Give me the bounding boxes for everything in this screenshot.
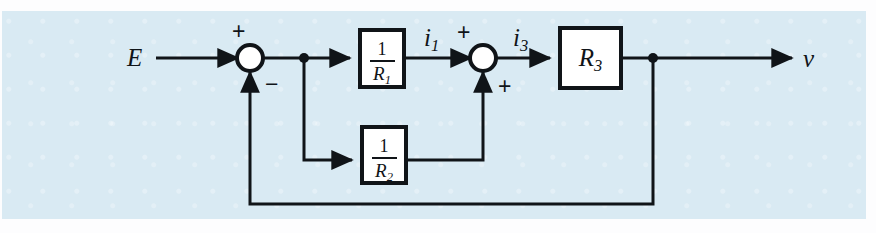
wire-branch-to-r2 (304, 58, 352, 160)
label-sum1-plus: + (232, 20, 245, 43)
summing-junction-2-circle (470, 45, 496, 71)
block-inv-r2-fraction-bar (372, 157, 397, 159)
block-r3-label-base: R (579, 44, 594, 71)
block-inv-r2-numerator: 1 (362, 137, 406, 156)
label-sum2-plus-top: + (457, 21, 470, 44)
label-sum2-plus-bottom: + (498, 75, 511, 98)
summing-junction-1-circle (237, 45, 263, 71)
figure-canvas: E + − i1 + + i3 v 1 R1 1 R2 R3 (0, 0, 876, 233)
label-input-e: E (127, 45, 142, 70)
block-inv-r1-denominator: R1 (360, 64, 404, 86)
block-inv-r2-denominator: R2 (362, 161, 406, 183)
block-inv-r2-denominator-base: R (375, 160, 387, 181)
block-inv-r1-denominator-subscript: 1 (385, 73, 391, 87)
block-r3-label-subscript: 3 (594, 56, 602, 75)
label-sum1-minus: − (265, 73, 278, 96)
branch-node-output-dot (648, 53, 658, 63)
block-r3-content: R3 (560, 45, 621, 74)
block-inv-r1-content: 1 R1 (360, 40, 404, 86)
label-signal-i3-base: i (513, 24, 520, 51)
label-signal-i3: i3 (513, 25, 528, 54)
block-inv-r2-content: 1 R2 (362, 137, 406, 183)
label-signal-i3-subscript: 3 (520, 36, 528, 55)
wire-r2-to-sum2 (406, 72, 483, 160)
block-inv-r1-fraction-bar (370, 60, 395, 62)
label-signal-i1: i1 (424, 25, 439, 54)
block-inv-r1-denominator-base: R (373, 63, 385, 84)
block-inv-r2-denominator-subscript: 2 (387, 170, 393, 184)
label-signal-i1-base: i (424, 24, 431, 51)
label-output-v: v (803, 46, 814, 71)
block-inv-r1-numerator: 1 (360, 40, 404, 59)
branch-node-after-sum1-dot (299, 53, 309, 63)
label-signal-i1-subscript: 1 (431, 36, 439, 55)
